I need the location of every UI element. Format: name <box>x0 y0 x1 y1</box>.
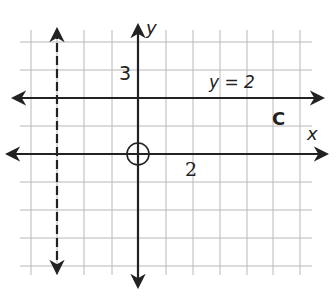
x-axis-label: x <box>306 123 318 144</box>
grid-lines <box>20 30 312 275</box>
line-name-c: C <box>272 108 285 129</box>
line-equation-label: y = 2 <box>208 72 255 92</box>
coordinate-plane: y x 3 2 y = 2 C <box>0 0 336 296</box>
x-axis-mark-2: 2 <box>185 158 197 180</box>
y-axis-label: y <box>145 17 157 38</box>
y-axis-mark-3: 3 <box>119 62 131 84</box>
